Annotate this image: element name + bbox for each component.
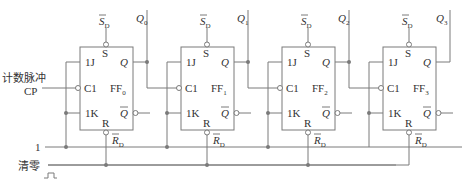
clock-pulse-label: 计数脉冲 xyxy=(2,71,46,85)
junction-dot xyxy=(266,145,270,149)
junction-dot xyxy=(165,111,169,115)
r-pin-label: R xyxy=(203,117,211,129)
qbar-bubble xyxy=(234,111,239,116)
q-pin-label: Q xyxy=(120,56,128,68)
j-pin-label: 1J xyxy=(85,56,96,68)
clear-label: 清零 xyxy=(18,160,40,173)
j-pin-label: 1J xyxy=(287,56,298,68)
clk-pin-label: C1 xyxy=(84,82,97,94)
s-pin-label: S xyxy=(102,47,108,59)
k-pin-label: 1K xyxy=(186,107,200,119)
junction-dot xyxy=(347,60,351,64)
flip-flop-0: 1J C1 1K S R Q Q FF0 SD RD Q0 xyxy=(64,10,177,167)
clk-pin-label: C1 xyxy=(185,82,198,94)
q2-output-label: Q2 xyxy=(338,12,350,27)
reset-bubble xyxy=(205,130,210,135)
qbar-pin-label: Q xyxy=(423,107,431,119)
q3-output-label: Q3 xyxy=(436,12,448,27)
r-pin-label: R xyxy=(304,117,312,129)
flip-flop-2: 1J C1 1K S R Q Q FF2 SD RD Q2 xyxy=(266,10,379,167)
q-pin-label: Q xyxy=(322,56,330,68)
reset-bubble xyxy=(306,130,311,135)
counter-circuit-diagram: 计数脉冲 CP 1 清零 1J C1 1K S R Q Q FF0 SD RD xyxy=(0,0,462,181)
junction-dot xyxy=(367,111,371,115)
q-pin-label: Q xyxy=(423,56,431,68)
qbar-pin-label: Q xyxy=(120,107,128,119)
clock-inversion-bubble xyxy=(379,86,384,91)
k-pin-label: 1K xyxy=(388,107,402,119)
q1-output-label: Q1 xyxy=(237,12,249,27)
s-pin-label: S xyxy=(203,47,209,59)
sd-label: SD xyxy=(301,15,312,30)
sd-label: SD xyxy=(99,15,110,30)
reset-bubble xyxy=(104,130,109,135)
junction-dot xyxy=(266,111,270,115)
clk-pin-label: C1 xyxy=(286,82,299,94)
k-pin-label: 1K xyxy=(287,107,301,119)
q-pin-label: Q xyxy=(221,56,229,68)
qbar-pin-label: Q xyxy=(322,107,330,119)
r-pin-label: R xyxy=(102,117,110,129)
clock-inversion-bubble xyxy=(177,86,182,91)
flip-flop-1: 1J C1 1K S R Q Q FF1 SD RD Q1 xyxy=(165,10,278,167)
junction-dot xyxy=(64,111,68,115)
junction-dot xyxy=(145,60,149,64)
junction-dot xyxy=(64,145,68,149)
sd-label: SD xyxy=(200,15,211,30)
s-pin-label: S xyxy=(405,47,411,59)
k-pin-label: 1K xyxy=(85,107,99,119)
j-pin-label: 1J xyxy=(186,56,197,68)
clk-pin-label: C1 xyxy=(387,82,400,94)
reset-bubble xyxy=(407,130,412,135)
clear-pulse-icon xyxy=(44,173,57,178)
qbar-pin-label: Q xyxy=(221,107,229,119)
s-pin-label: S xyxy=(304,47,310,59)
cp-label: CP xyxy=(24,85,37,97)
junction-dot xyxy=(246,60,250,64)
clock-inversion-bubble xyxy=(278,86,283,91)
qbar-bubble xyxy=(436,111,441,116)
q0-output-label: Q0 xyxy=(136,12,148,27)
j-pin-label: 1J xyxy=(388,56,399,68)
clock-inversion-bubble xyxy=(76,86,81,91)
qbar-bubble xyxy=(335,111,340,116)
one-label: 1 xyxy=(35,141,41,153)
junction-dot xyxy=(165,145,169,149)
sd-label: SD xyxy=(402,15,413,30)
r-pin-label: R xyxy=(405,117,413,129)
qbar-bubble xyxy=(133,111,138,116)
